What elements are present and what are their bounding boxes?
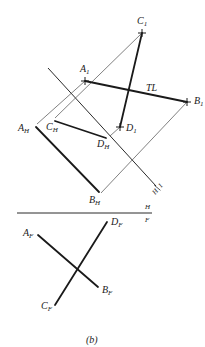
label-af: AF bbox=[22, 227, 34, 240]
fold-h1-labels: H 1 bbox=[149, 181, 165, 197]
line-af-bf bbox=[38, 235, 98, 287]
line-ah-bh bbox=[36, 127, 99, 192]
label-cf: CF bbox=[41, 300, 53, 313]
fold-line-h-1 bbox=[48, 68, 156, 186]
descriptive-geometry-figure: C1 A1 B1 D1 TL AH CH DH BH H 1 H F AF DF… bbox=[0, 0, 205, 347]
line-a1-b1 bbox=[85, 81, 187, 102]
label-fold-f: F bbox=[144, 216, 150, 224]
label-dh: DH bbox=[96, 138, 110, 151]
svg-text:H: H bbox=[150, 187, 161, 198]
label-ch: CH bbox=[46, 121, 59, 134]
figure-caption: (b) bbox=[86, 334, 98, 346]
label-df: DF bbox=[110, 216, 123, 229]
projector-c bbox=[55, 33, 142, 118]
label-bf: BF bbox=[102, 284, 113, 297]
projector-a bbox=[37, 81, 85, 124]
label-a1: A1 bbox=[79, 63, 90, 76]
label-bh: BH bbox=[89, 194, 101, 207]
label-b1: B1 bbox=[194, 95, 204, 108]
label-fold-h: H bbox=[144, 203, 151, 211]
label-ah: AH bbox=[17, 122, 30, 135]
label-true-length: TL bbox=[146, 82, 158, 93]
label-c1: C1 bbox=[137, 15, 147, 28]
line-cf-df bbox=[55, 222, 107, 305]
label-d1: D1 bbox=[125, 122, 137, 135]
projector-d bbox=[110, 127, 120, 136]
projector-b bbox=[101, 102, 187, 193]
line-c1-d1 bbox=[120, 33, 142, 127]
